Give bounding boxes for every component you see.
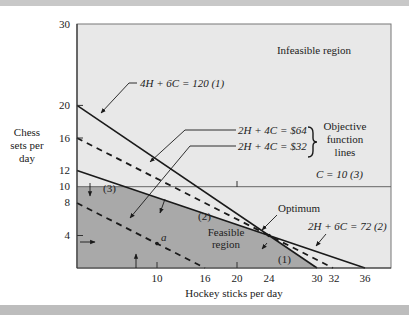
feasible-region-label-2: region bbox=[212, 238, 241, 250]
bottom-strip bbox=[0, 305, 409, 315]
x-tick-16: 16 bbox=[200, 272, 212, 284]
point-a bbox=[155, 242, 159, 246]
objective-label-1: Objective bbox=[324, 120, 367, 132]
objective-label-2: function bbox=[327, 133, 364, 145]
feasible-region-label-1: Feasible bbox=[208, 226, 245, 238]
y-axis-label-line2: sets per bbox=[10, 139, 44, 151]
y-tick-16: 16 bbox=[59, 132, 71, 144]
point-a-label: a bbox=[161, 231, 167, 243]
y-axis-label-line1: Chess bbox=[14, 126, 40, 138]
optimum-point bbox=[267, 234, 271, 238]
x-tick-32: 32 bbox=[329, 272, 340, 284]
x-tick-24: 24 bbox=[264, 272, 276, 284]
infeasible-region-label: Infeasible region bbox=[277, 44, 352, 56]
equation-2-label: 2H + 6C = 72 (2) bbox=[308, 220, 387, 233]
y-axis-label-line3: day bbox=[19, 152, 35, 164]
objective-label-3: lines bbox=[335, 146, 356, 158]
optimum-label: Optimum bbox=[278, 202, 321, 214]
y-tick-4: 4 bbox=[65, 229, 71, 241]
x-axis-label: Hockey sticks per day bbox=[185, 287, 283, 299]
x-tick-20: 20 bbox=[232, 272, 244, 284]
equation-3-label: C = 10 (3) bbox=[316, 168, 363, 181]
constraint-mark-3: (3) bbox=[103, 182, 116, 195]
equation-1-label: 4H + 6C = 120 (1) bbox=[140, 77, 225, 90]
x-tick-30: 30 bbox=[312, 272, 324, 284]
objective-64-label: 2H + 4C = $64 bbox=[238, 124, 307, 136]
objective-32-label: 2H + 4C = $32 bbox=[238, 140, 307, 152]
y-tick-30: 30 bbox=[59, 18, 71, 30]
constraint-mark-1: (1) bbox=[278, 253, 291, 266]
x-tick-36: 36 bbox=[360, 272, 372, 284]
y-tick-8: 8 bbox=[65, 196, 71, 208]
lp-graph: 30 20 16 12 10 8 4 10 16 20 24 30 32 36 … bbox=[0, 0, 409, 315]
constraint-mark-2: (2) bbox=[198, 210, 211, 223]
y-tick-20: 20 bbox=[59, 99, 71, 111]
y-tick-12: 12 bbox=[59, 164, 70, 176]
x-tick-10: 10 bbox=[152, 272, 164, 284]
y-tick-10: 10 bbox=[59, 180, 71, 192]
